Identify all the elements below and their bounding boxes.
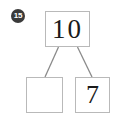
part-box-left[interactable] xyxy=(26,77,63,113)
worksheet-canvas: 15 10 7 xyxy=(0,0,123,122)
connector-line-left xyxy=(45,47,59,77)
whole-box[interactable]: 10 xyxy=(45,11,90,47)
connector-line-right xyxy=(78,47,93,77)
part-box-right[interactable]: 7 xyxy=(75,77,110,113)
